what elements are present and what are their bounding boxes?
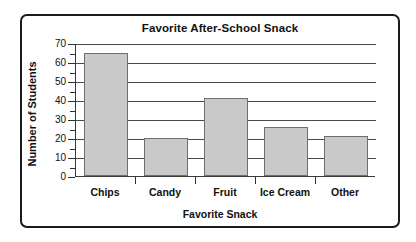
y-tick-label: 70 bbox=[44, 39, 66, 49]
y-tick-major bbox=[68, 101, 75, 102]
y-tick-label-wrap: 0 bbox=[42, 172, 66, 182]
bar bbox=[84, 53, 128, 177]
y-tick-label-wrap: 40 bbox=[42, 96, 66, 106]
x-axis-title: Favorite Snack bbox=[60, 208, 380, 220]
y-tick-major bbox=[68, 82, 75, 83]
y-tick-major bbox=[68, 120, 75, 121]
plot-area bbox=[75, 44, 375, 177]
y-tick-label: 10 bbox=[44, 153, 66, 163]
x-tick-label: Other bbox=[315, 186, 375, 198]
y-tick-label-wrap: 20 bbox=[42, 134, 66, 144]
x-tick-label: Candy bbox=[135, 186, 195, 198]
y-tick-label-wrap: 10 bbox=[42, 153, 66, 163]
y-tick-major bbox=[68, 139, 75, 140]
x-tick-label: Fruit bbox=[195, 186, 255, 198]
chart-title: Favorite After-School Snack bbox=[60, 22, 380, 34]
y-tick-label: 40 bbox=[44, 96, 66, 106]
y-tick-label: 0 bbox=[44, 172, 66, 182]
y-tick-label-wrap: 70 bbox=[42, 39, 66, 49]
y-axis-title: Number of Students bbox=[26, 49, 38, 179]
x-tick bbox=[195, 177, 196, 184]
y-tick-label-wrap: 50 bbox=[42, 77, 66, 87]
bar bbox=[204, 98, 248, 176]
x-tick bbox=[135, 177, 136, 184]
y-tick-major bbox=[68, 177, 75, 178]
x-tick-label: Ice Cream bbox=[255, 186, 315, 198]
gridline bbox=[76, 44, 376, 45]
y-tick-major bbox=[68, 158, 75, 159]
y-tick-label-wrap: 30 bbox=[42, 115, 66, 125]
y-tick-major bbox=[68, 63, 75, 64]
x-tick-label: Chips bbox=[75, 186, 135, 198]
y-tick-label: 20 bbox=[44, 134, 66, 144]
y-tick-label-wrap: 60 bbox=[42, 58, 66, 68]
bar bbox=[324, 136, 368, 176]
x-tick bbox=[255, 177, 256, 184]
y-tick-label: 60 bbox=[44, 58, 66, 68]
x-tick bbox=[315, 177, 316, 184]
y-tick-major bbox=[68, 44, 75, 45]
chart-figure: Favorite After-School Snack Number of St… bbox=[0, 0, 416, 242]
y-tick-label: 50 bbox=[44, 77, 66, 87]
y-tick-label: 30 bbox=[44, 115, 66, 125]
bar bbox=[144, 138, 188, 176]
bar bbox=[264, 127, 308, 176]
